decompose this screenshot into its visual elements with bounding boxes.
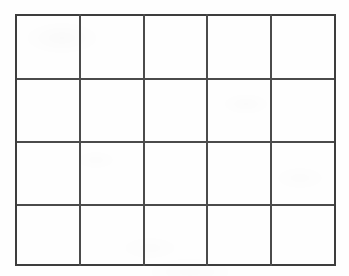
grid-cell-r1c3[interactable] bbox=[146, 16, 206, 77]
grid-cell-r2c2[interactable] bbox=[82, 81, 143, 140]
scanned-page bbox=[0, 0, 349, 276]
grid-horizontal-line-1 bbox=[15, 78, 336, 80]
grid-cell-r4c2[interactable] bbox=[82, 207, 143, 264]
grid-horizontal-line-2 bbox=[15, 141, 336, 143]
grid-cell-r3c1[interactable] bbox=[17, 144, 79, 203]
grid-cell-r3c3[interactable] bbox=[146, 144, 206, 203]
grid-vertical-line-right bbox=[334, 14, 336, 266]
grid-cell-r1c4[interactable] bbox=[209, 16, 270, 77]
grid-vertical-line-3 bbox=[206, 14, 208, 266]
grid-horizontal-line-bottom bbox=[15, 264, 336, 266]
grid-cell-r3c5[interactable] bbox=[273, 144, 334, 203]
grid-vertical-line-1 bbox=[79, 14, 81, 266]
grid-vertical-line-left bbox=[15, 14, 17, 266]
grid-horizontal-line-3 bbox=[15, 204, 336, 206]
grid-cell-r2c1[interactable] bbox=[17, 81, 79, 140]
grid-cell-r3c2[interactable] bbox=[82, 144, 143, 203]
grid-cell-r2c3[interactable] bbox=[146, 81, 206, 140]
grid-cell-r1c5[interactable] bbox=[273, 16, 334, 77]
grid-cell-r4c3[interactable] bbox=[146, 207, 206, 264]
grid-horizontal-line-top bbox=[15, 14, 336, 16]
grid-vertical-line-4 bbox=[270, 14, 272, 266]
grid-cell-r1c2[interactable] bbox=[82, 16, 143, 77]
grid-cell-r4c5[interactable] bbox=[273, 207, 334, 264]
grid-cell-r1c1[interactable] bbox=[17, 16, 79, 77]
grid-cell-r2c5[interactable] bbox=[273, 81, 334, 140]
grid-vertical-line-2 bbox=[143, 14, 145, 266]
grid-cell-r4c4[interactable] bbox=[209, 207, 270, 264]
grid-cell-r2c4[interactable] bbox=[209, 81, 270, 140]
grid-cell-r3c4[interactable] bbox=[209, 144, 270, 203]
grid-cell-r4c1[interactable] bbox=[17, 207, 79, 264]
